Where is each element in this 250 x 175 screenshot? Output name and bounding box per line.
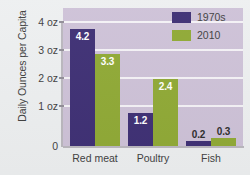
bar-red-meat-2010[interactable]: 3.3	[95, 54, 120, 147]
y-axis-line	[61, 22, 63, 147]
legend-item-1970s[interactable]: 1970s	[172, 11, 226, 23]
legend-item-2010[interactable]: 2010	[172, 29, 226, 41]
legend-label: 1970s	[197, 11, 226, 23]
y-tick-mark-2oz	[59, 77, 64, 79]
bar-value-label: 0.3	[209, 126, 238, 137]
grouped-bar-chart: Daily Ounces per Capita 4.2 3.3 1.2 2.4	[0, 0, 250, 175]
bar-value-label: 1.2	[128, 115, 153, 126]
bar-poultry-1970s[interactable]: 1.2	[128, 113, 153, 147]
bar-value-label: 4.2	[70, 31, 95, 42]
legend-swatch-icon	[172, 12, 191, 23]
y-tick-label-2oz: 2 oz	[22, 72, 58, 84]
y-tick-mark-1oz	[59, 105, 64, 107]
x-tick-label-red-meat: Red meat	[67, 152, 123, 164]
y-tick-labels: 4 oz 3 oz 2 oz 1 oz 0	[22, 22, 58, 146]
x-axis-line	[63, 146, 244, 148]
bar-value-label: 2.4	[153, 81, 178, 92]
y-tick-mark-4oz	[59, 21, 64, 23]
bar-red-meat-1970s[interactable]: 4.2	[70, 29, 95, 147]
legend-swatch-icon	[172, 30, 191, 41]
y-tick-label-1oz: 1 oz	[22, 100, 58, 112]
x-tick-label-fish: Fish	[183, 152, 239, 164]
legend-label: 2010	[197, 29, 220, 41]
x-tick-label-poultry: Poultry	[125, 152, 181, 164]
y-tick-label-3oz: 3 oz	[22, 44, 58, 56]
plot-area: 4.2 3.3 1.2 2.4 0.2 0.3	[63, 8, 243, 147]
bar-group-red-meat: 4.2 3.3	[67, 8, 123, 147]
y-tick-label-4oz: 4 oz	[22, 16, 58, 28]
y-tick-mark-3oz	[59, 49, 64, 51]
bar-poultry-2010[interactable]: 2.4	[153, 79, 178, 147]
y-tick-label-0: 0	[22, 140, 58, 152]
legend: 1970s 2010	[172, 11, 226, 47]
bar-value-label: 3.3	[95, 56, 120, 67]
